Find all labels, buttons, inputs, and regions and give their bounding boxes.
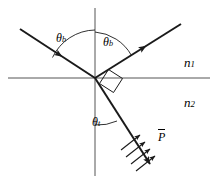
refracted-ray: [95, 78, 150, 164]
medium-lower-subscript: 2: [191, 99, 195, 109]
refracted-angle-subscript: t: [98, 119, 100, 128]
poynting-vector-label: P: [158, 129, 165, 143]
incident-angle-label: θb: [56, 32, 66, 44]
reflected-angle-subscript: b: [109, 39, 113, 48]
optics-diagram-brewster-angle: θb θb θt n1 n2 P: [0, 0, 218, 186]
medium-upper-label: n1: [184, 56, 195, 69]
polarization-tick-arrows: [121, 135, 155, 171]
poynting-vector-symbol: P: [158, 129, 165, 143]
reflected-angle-label: θb: [103, 36, 113, 48]
medium-upper-subscript: 1: [191, 59, 195, 69]
incident-angle-subscript: b: [62, 35, 66, 44]
refracted-angle-label: θt: [92, 116, 100, 128]
medium-lower-label: n2: [184, 96, 195, 109]
reflected-angle-arc: [95, 32, 132, 56]
diagram-canvas: [0, 0, 218, 186]
